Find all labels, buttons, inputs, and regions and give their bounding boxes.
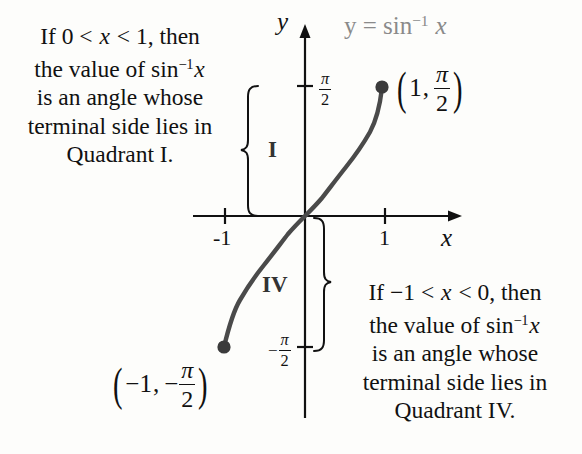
open-paren: ( <box>397 72 407 105</box>
point-x-value: 1 <box>409 74 422 102</box>
note-line: Quadrant IV. <box>330 396 580 424</box>
endpoint-upper-dot <box>375 80 388 93</box>
brace-quadrant-I <box>241 86 258 216</box>
x-axis-arrowhead <box>448 211 462 222</box>
close-paren: ) <box>198 368 208 401</box>
graph-title-equals: = sin <box>363 12 413 39</box>
y-axis-label: y <box>277 8 288 36</box>
note-text: If 0 < <box>40 23 98 49</box>
y-tick-label-neg-pi-over-2: − π 2 <box>268 332 291 369</box>
fraction-bar <box>179 384 195 386</box>
note-exponent: −1 <box>513 312 528 328</box>
fraction-denominator: 2 <box>434 91 450 115</box>
note-line: Quadrant I. <box>2 140 238 168</box>
fraction-bar <box>434 88 450 90</box>
note-line: terminal side lies in <box>330 368 580 396</box>
note-line: the value of sin−1x <box>2 50 238 83</box>
note-text: the value of sin <box>369 312 513 338</box>
fraction-denominator: 2 <box>279 353 291 369</box>
fraction-numerator: π <box>434 62 450 86</box>
note-text: If −1 < <box>369 279 441 305</box>
quadrant-label-I: I <box>268 137 277 163</box>
note-variable: x <box>98 23 110 49</box>
fraction-denominator: 2 <box>319 92 331 108</box>
x-tick-label-pos1: 1 <box>379 225 390 251</box>
note-variable: x <box>440 279 452 305</box>
note-line: terminal side lies in <box>2 112 238 140</box>
note-text: terminal side lies in <box>28 113 213 139</box>
fraction-minus-sign: − <box>164 370 178 398</box>
note-text-tail: < 0, then <box>453 279 542 305</box>
x-axis-label: x <box>441 224 452 252</box>
graph-title-x: x <box>434 12 447 39</box>
fraction-numerator: π <box>179 358 195 382</box>
note-quadrant-I: If 0 < x < 1, then the value of sin−1x i… <box>2 22 238 169</box>
fraction-pi-over-2: π 2 <box>434 62 450 115</box>
note-line: is an angle whose <box>330 339 580 367</box>
fraction-denominator: 2 <box>179 387 195 411</box>
note-line: If 0 < x < 1, then <box>2 22 238 50</box>
close-paren: ) <box>453 72 463 105</box>
note-text: Quadrant IV. <box>395 397 516 423</box>
note-text: the value of sin <box>34 56 178 82</box>
note-text: is an angle whose <box>372 340 538 366</box>
note-text-tail: < 1, then <box>111 23 200 49</box>
fraction-pi-over-2: π 2 <box>279 332 291 369</box>
graph-title-exponent: −1 <box>412 12 428 29</box>
endpoint-lower-dot <box>217 340 230 353</box>
note-exponent: −1 <box>178 56 193 72</box>
y-tick-label-pi-over-2: π 2 <box>319 69 331 108</box>
point-x-value: −1 <box>125 370 152 398</box>
open-paren: ( <box>113 368 123 401</box>
fraction-minus-sign: − <box>268 341 278 361</box>
note-variable: x <box>528 312 540 338</box>
fraction-pi-over-2: π 2 <box>179 358 195 411</box>
fraction-numerator: π <box>319 71 331 87</box>
fraction-numerator: π <box>279 332 291 348</box>
graph-title: y = sin−1 x <box>344 12 448 40</box>
note-quadrant-IV: If −1 < x < 0, then the value of sin−1x … <box>330 278 580 425</box>
note-text: Quadrant I. <box>66 141 173 167</box>
x-tick-label-neg1: -1 <box>213 225 231 251</box>
y-axis-arrowhead <box>300 24 311 38</box>
point-label-lower-endpoint: ( −1 , − π 2 ) <box>110 358 211 411</box>
fraction-pi-over-2: π 2 <box>319 71 331 108</box>
point-comma: , <box>153 370 159 398</box>
quadrant-label-IV: IV <box>262 272 288 298</box>
note-line: is an angle whose <box>2 83 238 111</box>
graph-title-y: y <box>344 12 357 39</box>
figure-canvas: y = sin−1 x y x -1 1 π 2 − π 2 ( <box>0 0 582 454</box>
note-text: terminal side lies in <box>363 369 548 395</box>
note-line: If −1 < x < 0, then <box>330 278 580 306</box>
note-line: the value of sin−1x <box>330 306 580 339</box>
note-text: is an angle whose <box>37 84 203 110</box>
note-variable: x <box>193 56 205 82</box>
point-comma: , <box>423 74 429 102</box>
point-label-upper-endpoint: ( 1 , π 2 ) <box>394 62 465 115</box>
brace-quadrant-IV <box>314 218 331 351</box>
